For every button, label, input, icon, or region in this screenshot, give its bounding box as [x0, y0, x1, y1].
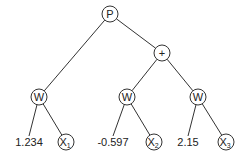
edge-w2-x2	[131, 104, 150, 135]
node-x2: X2	[146, 134, 162, 150]
edge-w3-n3	[188, 105, 196, 136]
node-x3: X3	[218, 134, 234, 150]
node-x1: X1	[58, 134, 74, 150]
node-label: W	[122, 91, 133, 103]
node-p: P	[102, 6, 118, 22]
node-subscript: 2	[155, 142, 159, 149]
expression-tree: P+WWWX1X2X31.234-0.5972.15	[0, 0, 248, 159]
node-label: P	[106, 8, 113, 20]
edge-w1-n1	[29, 105, 37, 136]
nodes: P+WWWX1X2X31.234-0.5972.15	[15, 6, 234, 150]
weight-value: 2.15	[177, 136, 198, 148]
edge-w3-x3	[202, 104, 222, 135]
node-label: W	[34, 91, 45, 103]
node-subscript: 3	[227, 142, 231, 149]
edges	[29, 19, 222, 136]
edge-p-plus	[116, 19, 155, 48]
edge-w2-n2	[113, 105, 124, 136]
weight-value: -0.597	[97, 136, 128, 148]
node-w1: W	[31, 89, 47, 105]
node-w2: W	[119, 89, 135, 105]
node-subscript: 1	[67, 142, 71, 149]
edge-w1-x1	[43, 104, 62, 135]
edge-p-w1	[44, 20, 105, 91]
node-plus: +	[154, 45, 170, 61]
node-w3: W	[190, 89, 206, 105]
edge-plus-w3	[167, 59, 193, 91]
node-label: W	[193, 91, 204, 103]
node-label: +	[159, 47, 165, 59]
weight-value: 1.234	[15, 136, 43, 148]
edge-plus-w2	[132, 59, 157, 90]
